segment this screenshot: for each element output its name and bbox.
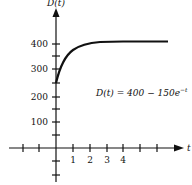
y-axis-label: D(t)	[46, 0, 65, 8]
y-axis	[52, 14, 60, 182]
x-tick-4: 4	[120, 155, 126, 165]
y-tick-100: 100	[31, 117, 48, 127]
x-tick-1: 1	[70, 155, 76, 165]
x-axis-label: t	[187, 143, 191, 153]
x-axis-arrow-icon	[174, 145, 184, 152]
equation-label: D(t) = 400 − 150e−t	[95, 86, 188, 98]
curve-D-of-t	[56, 42, 168, 84]
x-axis	[9, 144, 178, 152]
chart: 400 300 200 100 1 2 3 4 D(t) t D(t) = 40…	[0, 0, 192, 185]
y-axis-arrow-icon	[53, 8, 60, 17]
y-tick-400: 400	[31, 39, 48, 49]
y-tick-200: 200	[31, 92, 48, 102]
x-tick-3: 3	[104, 155, 110, 165]
y-tick-300: 300	[31, 64, 48, 74]
x-tick-2: 2	[87, 155, 93, 165]
